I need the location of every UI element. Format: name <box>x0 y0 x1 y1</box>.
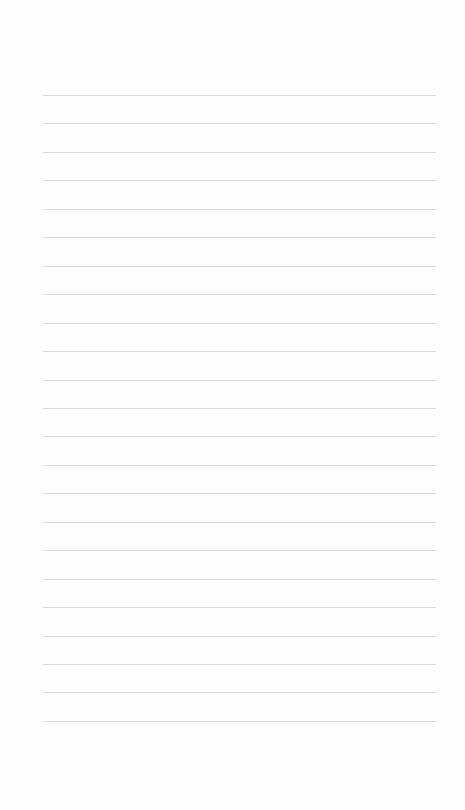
ruled-line <box>43 408 436 409</box>
ruled-line <box>43 209 436 210</box>
ruled-line <box>43 607 436 608</box>
ruled-line <box>43 294 436 295</box>
ruled-line <box>43 95 436 96</box>
ruled-line <box>43 550 436 551</box>
ruled-line <box>43 351 436 352</box>
ruled-line <box>43 323 436 324</box>
ruled-line <box>43 152 436 153</box>
lined-paper <box>0 0 465 810</box>
ruled-line <box>43 237 436 238</box>
ruled-line <box>43 180 436 181</box>
ruled-line <box>43 436 436 437</box>
ruled-line <box>43 636 436 637</box>
ruled-line <box>43 522 436 523</box>
ruled-line <box>43 493 436 494</box>
ruled-line <box>43 380 436 381</box>
ruled-line <box>43 664 436 665</box>
ruled-line <box>43 465 436 466</box>
ruled-line <box>43 266 436 267</box>
ruled-line <box>43 721 436 722</box>
ruled-line <box>43 692 436 693</box>
ruled-line <box>43 579 436 580</box>
ruled-line <box>43 123 436 124</box>
